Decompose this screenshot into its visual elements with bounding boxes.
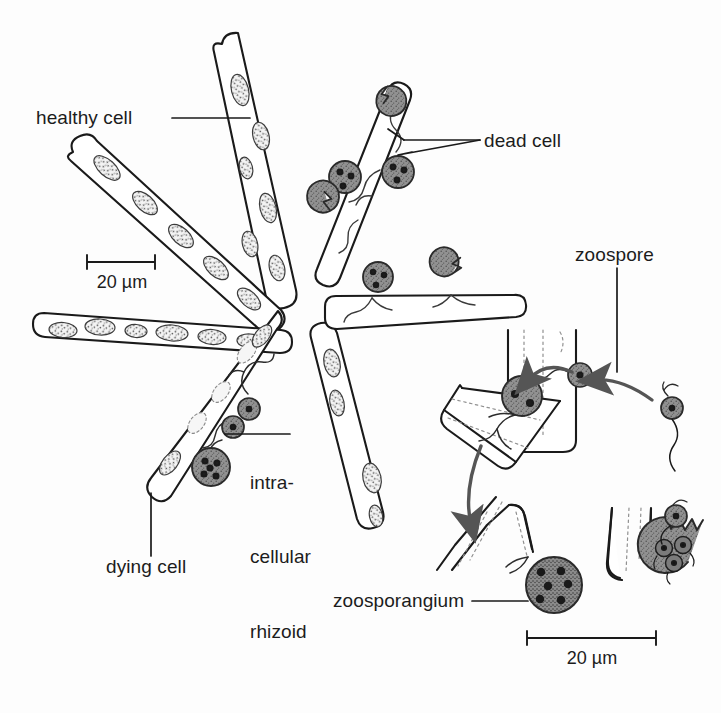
cell-dead-horizontal	[325, 295, 526, 329]
label-zoosporangium: zoosporangium	[333, 589, 464, 613]
label-dead-cell: dead cell	[484, 129, 561, 153]
cell-healthy-lower-right	[310, 323, 384, 529]
sporangium-infecting	[502, 376, 542, 416]
label-intracellular-rhizoid-line2: cellular	[250, 545, 311, 570]
zoosporangium-discharging	[638, 517, 703, 584]
label-zoospore: zoospore	[575, 243, 654, 267]
label-intracellular-rhizoid-line1: intra-	[250, 471, 311, 496]
zoospore-encysting	[664, 384, 678, 390]
zoosporangium-mature	[526, 557, 582, 613]
arrow-swimming-to-settled	[596, 380, 652, 400]
figure-panel: -0	[0, 0, 721, 713]
label-intracellular-rhizoid-line3: rhizoid	[250, 620, 311, 645]
arrow-infection-to-maturation	[469, 446, 481, 524]
label-healthy-cell: healthy cell	[36, 106, 132, 130]
zoospore-swimming: -0	[661, 382, 683, 471]
label-intracellular-rhizoid: intra- cellular rhizoid	[250, 422, 311, 694]
scale-bar-left-label: 20 µm	[86, 272, 158, 293]
scale-bar-left-artwork	[87, 255, 155, 269]
scale-bar-right-label: 20 µm	[527, 648, 657, 669]
leader-dead-cell-hook	[398, 140, 480, 155]
cell-with-mature-sporangium	[437, 497, 533, 573]
scale-bar-right-artwork	[527, 631, 656, 645]
label-dying-cell: dying cell	[106, 555, 186, 579]
